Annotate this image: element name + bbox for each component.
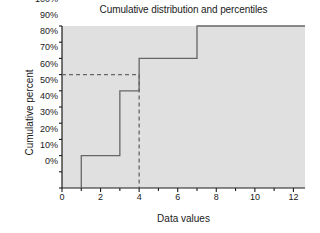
y-axis-title: Cumulative percent xyxy=(24,33,35,193)
xtick-label-8: 8 xyxy=(204,192,228,202)
xtick-label-6: 6 xyxy=(166,192,190,202)
x-axis-title: Data values xyxy=(62,213,305,224)
xtick-label-2: 2 xyxy=(89,192,113,202)
ytick-label-100: 100% xyxy=(20,0,58,4)
xtick-label-10: 10 xyxy=(243,192,267,202)
xtick-label-0: 0 xyxy=(50,192,74,202)
xtick-label-12: 12 xyxy=(282,192,306,202)
ytick-label-90: 90% xyxy=(20,10,58,20)
plot-background xyxy=(62,26,305,188)
cumulative-distribution-chart: Cumulative distribution and percentiles … xyxy=(0,0,320,233)
xtick-label-4: 4 xyxy=(127,192,151,202)
